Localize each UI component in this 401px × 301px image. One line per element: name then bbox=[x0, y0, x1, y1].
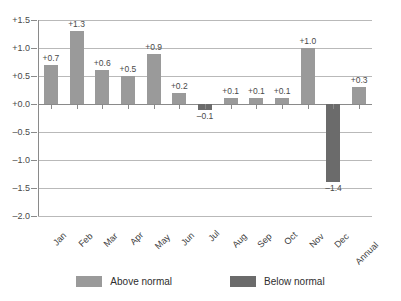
bar-value-label: +0.7 bbox=[42, 54, 59, 63]
bar-slot: +0.1 bbox=[269, 20, 295, 216]
y-axis-tick-label: –0.5 bbox=[12, 128, 30, 137]
x-axis-tick-label: Apr bbox=[128, 230, 145, 247]
x-axis-tick bbox=[256, 104, 257, 109]
bar-value-label: +0.3 bbox=[351, 76, 368, 85]
bar-slot: +1.3 bbox=[64, 20, 90, 216]
x-axis-tick-label: May bbox=[153, 232, 172, 251]
x-axis-tick bbox=[282, 104, 283, 109]
chart-legend: Above normalBelow normal bbox=[0, 270, 401, 292]
x-axis-tick bbox=[333, 104, 334, 109]
x-axis-tick-label: Aug bbox=[230, 231, 248, 249]
x-axis-tick-label: Sep bbox=[256, 231, 274, 249]
x-axis-tick-label: Feb bbox=[76, 231, 94, 249]
y-axis-tick bbox=[31, 160, 37, 161]
x-axis-tick-label: Dec bbox=[333, 231, 351, 249]
x-axis-labels: JanFebMarAprMayJunJulAugSepOctNovDecAnnu… bbox=[38, 220, 372, 272]
bar-slot: +0.7 bbox=[38, 20, 64, 216]
x-axis-tick bbox=[359, 104, 360, 109]
legend-item[interactable]: Below normal bbox=[230, 276, 325, 287]
y-axis-tick-label: –1.0 bbox=[12, 156, 30, 165]
bar-series: +0.7+1.3+0.6+0.5+0.9+0.2–0.1+0.1+0.1+0.1… bbox=[38, 20, 372, 216]
x-axis-tick-label: Annual bbox=[354, 240, 381, 267]
bar-value-label: –1.4 bbox=[325, 184, 342, 193]
bar-value-label: +1.3 bbox=[68, 20, 85, 29]
bar bbox=[95, 70, 109, 104]
x-axis-tick bbox=[205, 104, 206, 109]
bar bbox=[44, 65, 58, 104]
bar-value-label: +0.5 bbox=[120, 65, 137, 74]
bar-slot: +0.5 bbox=[115, 20, 141, 216]
bar-slot: +0.9 bbox=[141, 20, 167, 216]
x-axis-tick bbox=[77, 104, 78, 109]
bar-slot: –0.1 bbox=[192, 20, 218, 216]
bar-value-label: +0.9 bbox=[145, 43, 162, 52]
bar-value-label: +0.1 bbox=[274, 87, 291, 96]
y-axis-tick-label: +0.5 bbox=[12, 72, 30, 81]
legend-label: Below normal bbox=[264, 276, 325, 287]
y-axis-tick bbox=[31, 76, 37, 77]
x-axis-tick-label: Nov bbox=[307, 231, 325, 249]
y-axis-tick bbox=[31, 104, 37, 105]
y-axis-tick bbox=[31, 20, 37, 21]
bar-slot: –1.4 bbox=[321, 20, 347, 216]
bar-chart: +1.5+1.0+0.5+0.0–0.5–1.0–1.5–2.0 +0.7+1.… bbox=[0, 0, 401, 301]
bar bbox=[147, 54, 161, 104]
bar-value-label: +0.6 bbox=[94, 59, 111, 68]
x-axis-tick-label: Oct bbox=[282, 230, 299, 247]
plot-area: +0.7+1.3+0.6+0.5+0.9+0.2–0.1+0.1+0.1+0.1… bbox=[38, 20, 372, 216]
x-axis-tick bbox=[308, 104, 309, 109]
legend-swatch-neg bbox=[230, 276, 256, 287]
legend-item[interactable]: Above normal bbox=[76, 276, 172, 287]
bar-slot: +0.6 bbox=[89, 20, 115, 216]
x-axis-tick-label: Jun bbox=[179, 230, 196, 247]
y-axis-tick bbox=[31, 132, 37, 133]
gridline bbox=[38, 216, 372, 217]
bar-slot: +0.2 bbox=[166, 20, 192, 216]
x-axis-tick bbox=[51, 104, 52, 109]
legend-swatch-pos bbox=[76, 276, 102, 287]
x-axis-tick bbox=[128, 104, 129, 109]
x-axis-tick-label: Jan bbox=[51, 230, 68, 247]
legend-label: Above normal bbox=[110, 276, 172, 287]
bar-value-label: –0.1 bbox=[197, 112, 214, 121]
y-axis-tick-label: +0.0 bbox=[12, 100, 30, 109]
bar bbox=[172, 93, 186, 104]
x-axis-tick bbox=[179, 104, 180, 109]
y-axis-tick-label: –2.0 bbox=[12, 212, 30, 221]
bar bbox=[121, 76, 135, 104]
bar-value-label: +0.2 bbox=[171, 82, 188, 91]
y-axis-tick bbox=[31, 188, 37, 189]
y-axis-tick bbox=[31, 216, 37, 217]
y-axis-tick-label: –1.5 bbox=[12, 184, 30, 193]
y-axis-tick-label: +1.0 bbox=[12, 44, 30, 53]
bar-value-label: +0.1 bbox=[248, 87, 265, 96]
bar-slot: +0.1 bbox=[218, 20, 244, 216]
x-axis-tick-label: Mar bbox=[102, 231, 120, 249]
y-axis-tick bbox=[31, 48, 37, 49]
x-axis-tick-label: Jul bbox=[206, 228, 221, 243]
bar bbox=[301, 48, 315, 104]
y-axis-tick-label: +1.5 bbox=[12, 16, 30, 25]
x-axis-tick bbox=[231, 104, 232, 109]
bar-slot: +0.3 bbox=[346, 20, 372, 216]
bar bbox=[326, 104, 340, 182]
x-axis-tick bbox=[154, 104, 155, 109]
x-axis-tick bbox=[102, 104, 103, 109]
bar-value-label: +0.1 bbox=[222, 87, 239, 96]
bar-slot: +1.0 bbox=[295, 20, 321, 216]
bar bbox=[352, 87, 366, 104]
bar-slot: +0.1 bbox=[244, 20, 270, 216]
bar-value-label: +1.0 bbox=[299, 37, 316, 46]
y-axis-labels: +1.5+1.0+0.5+0.0–0.5–1.0–1.5–2.0 bbox=[0, 20, 36, 216]
bar bbox=[70, 31, 84, 104]
